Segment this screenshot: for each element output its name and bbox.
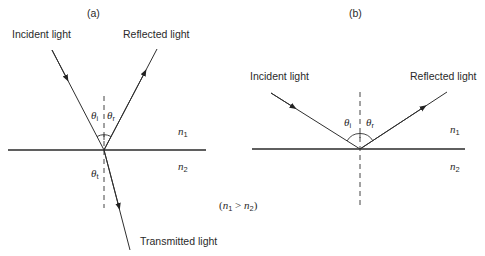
incident-arrow-icon — [52, 50, 67, 79]
panel-a: (a) Incident light Reflected light θi θr… — [8, 7, 217, 250]
reflected-light-label: Reflected light — [123, 28, 190, 40]
refractive-index-condition: (n1 > n2) — [219, 199, 258, 213]
incident-arrow-icon — [271, 93, 294, 108]
incident-light-label: Incident light — [250, 70, 309, 82]
n1-label: n1 — [450, 123, 460, 137]
incident-light-label: Incident light — [12, 28, 71, 40]
theta-i-label: θi — [91, 109, 98, 123]
theta-r-label: θr — [107, 109, 115, 123]
theta-t-label: θt — [91, 167, 99, 181]
reflection-refraction-diagram: (a) Incident light Reflected light θi θr… — [0, 0, 485, 256]
n2-label: n2 — [450, 160, 460, 174]
panel-b-label: (b) — [349, 7, 362, 19]
panel-b: (b) Incident light Reflected light θi θr… — [250, 7, 477, 208]
transmitted-light-label: Transmitted light — [140, 235, 217, 247]
n1-label: n1 — [178, 125, 188, 139]
n2-label: n2 — [178, 160, 188, 174]
theta-i-label: θi — [344, 116, 351, 130]
theta-r-label: θr — [366, 116, 374, 130]
reflected-arrow-icon — [360, 107, 424, 149]
panel-a-label: (a) — [87, 7, 100, 19]
transmitted-arrow-icon — [104, 150, 119, 207]
reflected-light-label: Reflected light — [410, 70, 477, 82]
